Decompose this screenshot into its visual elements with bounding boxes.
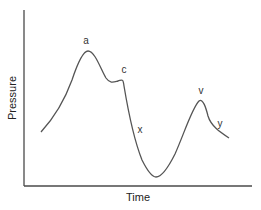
label-y: y bbox=[218, 118, 223, 129]
pressure-curve bbox=[41, 51, 229, 177]
pressure-time-chart: a c x v y Time Pressure bbox=[0, 0, 261, 210]
label-a: a bbox=[83, 35, 89, 46]
x-axis-title: Time bbox=[126, 191, 150, 203]
label-c: c bbox=[122, 64, 127, 75]
label-x: x bbox=[138, 124, 143, 135]
y-axis-title: Pressure bbox=[6, 76, 18, 120]
label-v: v bbox=[199, 85, 204, 96]
